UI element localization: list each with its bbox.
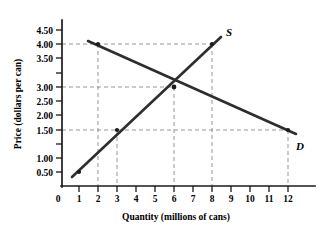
- supply-curve-label: S: [226, 26, 232, 38]
- x-tick-label-9: 9: [229, 194, 234, 204]
- x-tick-label-3: 3: [115, 194, 120, 204]
- x-tick-label-5: 5: [153, 194, 158, 204]
- x-tick-label-10: 10: [245, 194, 255, 204]
- y-axis-title: Price (dollars per can): [13, 59, 24, 149]
- x-axis-tick-labels: 0 1 2 3 4 5 6 7 8 9 10 11 12: [56, 194, 293, 204]
- demand-curve-label: D: [295, 140, 304, 152]
- x-tick-label-12: 12: [283, 194, 293, 204]
- y-axis-tick-labels: 4.50 4.00 3.50 3.00 2.50 2.00 1.50 1.00 …: [36, 26, 53, 178]
- x-tick-label-11: 11: [265, 194, 274, 204]
- y-tick-label-400: 4.00: [36, 40, 53, 50]
- point-equilibrium-6-300: [172, 85, 177, 90]
- x-tick-label-6: 6: [172, 194, 177, 204]
- y-tick-label-350: 3.50: [36, 54, 53, 64]
- x-tick-label-7: 7: [191, 194, 196, 204]
- y-axis-ticks: [56, 30, 62, 172]
- y-tick-label-100: 1.00: [36, 154, 53, 164]
- chart-canvas: 4.50 4.00 3.50 3.00 2.50 2.00 1.50 1.00 …: [0, 0, 325, 239]
- x-tick-label-2: 2: [96, 194, 101, 204]
- data-point-markers: [77, 42, 290, 174]
- supply-curve: [72, 37, 221, 177]
- y-tick-label-450: 4.50: [36, 26, 53, 36]
- x-axis-title: Quantity (millions of cans): [122, 212, 230, 223]
- y-tick-label-250: 2.50: [36, 97, 53, 107]
- x-tick-label-0: 0: [56, 194, 61, 204]
- point-d-2-400: [96, 42, 100, 46]
- x-tick-label-4: 4: [134, 194, 139, 204]
- supply-demand-chart: 4.50 4.00 3.50 3.00 2.50 2.00 1.50 1.00 …: [0, 0, 325, 239]
- point-d-12-150: [286, 128, 290, 132]
- y-tick-label-200: 2.00: [36, 111, 53, 121]
- point-s-1-050: [77, 170, 81, 174]
- y-tick-label-050: 0.50: [36, 168, 53, 178]
- x-tick-label-8: 8: [210, 194, 215, 204]
- demand-curve: [88, 41, 296, 134]
- y-tick-label-300: 3.00: [36, 83, 53, 93]
- point-s-3-150: [115, 128, 119, 132]
- x-axis-ticks: [79, 186, 288, 192]
- x-tick-label-1: 1: [77, 194, 82, 204]
- y-tick-label-150: 1.50: [36, 126, 53, 136]
- point-s-8-400: [210, 42, 214, 46]
